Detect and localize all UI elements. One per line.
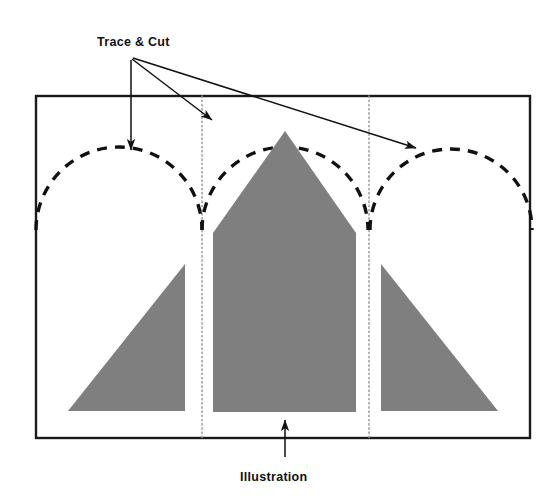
trace-and-cut-label: Trace & Cut (97, 35, 170, 49)
craft-template-diagram: Trace & Cut Illustration (0, 0, 559, 504)
diagram-root: Trace & Cut Illustration (0, 0, 559, 504)
illustration-label: Illustration (240, 470, 308, 484)
